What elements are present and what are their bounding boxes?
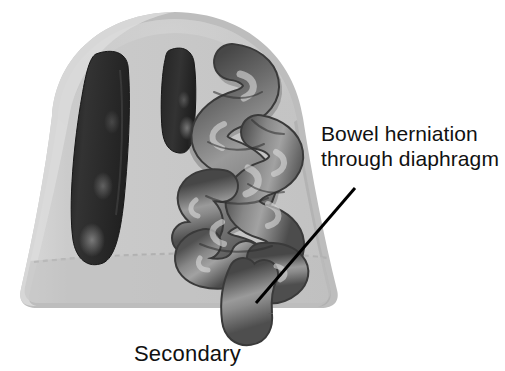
- annotation-line-1: Bowel herniation: [321, 122, 499, 147]
- figure-caption: Secondary: [134, 341, 241, 367]
- anatomy-illustration: [0, 0, 505, 371]
- bowel-descending-segment: [235, 272, 264, 331]
- medical-illustration-figure: Bowel herniation through diaphragm Secon…: [0, 0, 505, 371]
- bowel-herniation-annotation: Bowel herniation through diaphragm: [321, 122, 499, 172]
- annotation-line-2: through diaphragm: [321, 147, 499, 172]
